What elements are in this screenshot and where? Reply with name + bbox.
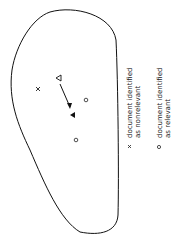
relevance-feedback-diagram: document identified as nonrelevant docum…	[0, 0, 183, 236]
arrow-head-icon	[67, 103, 72, 109]
original-query-icon	[56, 75, 61, 81]
legend-nonrelevant-icon	[128, 145, 131, 148]
legend-nonrelevant-line1: document identified	[126, 67, 134, 138]
legend-relevant-line2: as relevant	[164, 99, 172, 138]
legend-relevant-icon	[157, 145, 160, 148]
relevant-marker	[84, 98, 88, 102]
relevant-marker	[74, 138, 78, 142]
nonrelevant-marker	[36, 87, 40, 91]
legend-nonrelevant-line2: as nonrelevant	[134, 86, 142, 138]
modified-query-icon	[70, 112, 75, 118]
legend: document identified as nonrelevant docum…	[126, 67, 172, 148]
legend-relevant-line1: document identified	[156, 67, 164, 138]
document-space-boundary	[11, 10, 118, 234]
